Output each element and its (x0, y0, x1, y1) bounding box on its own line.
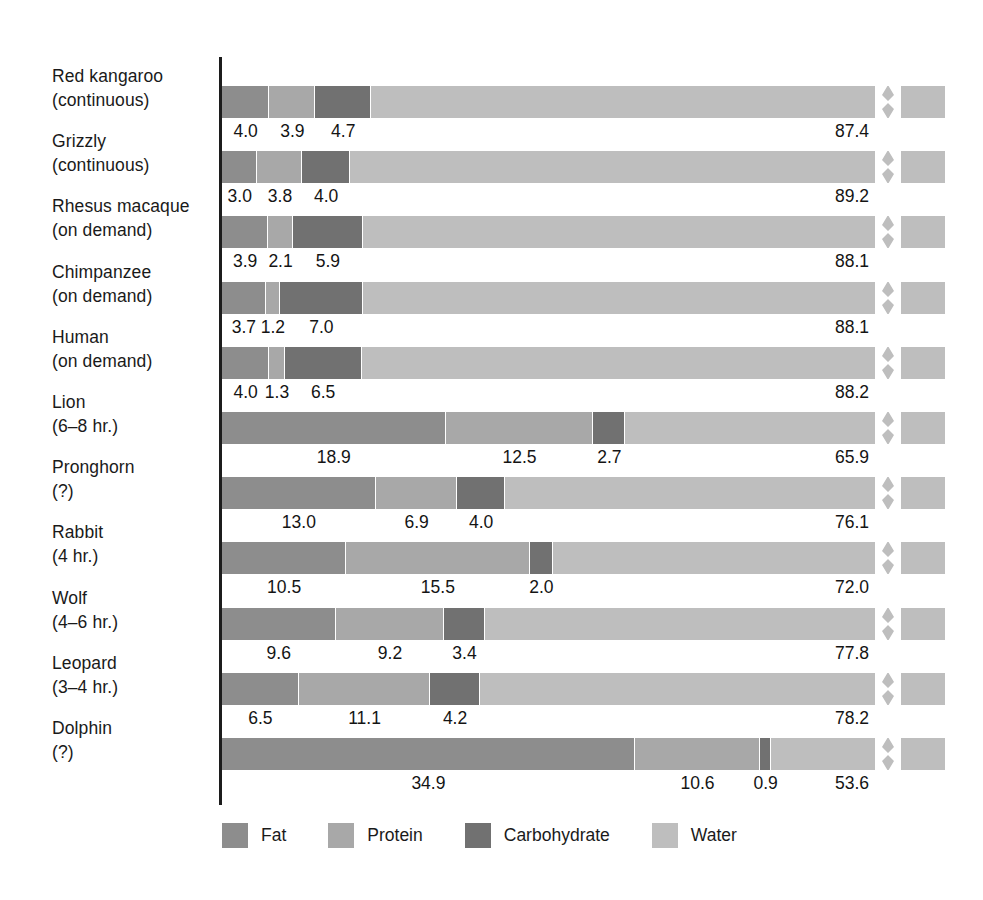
bar-segment-water (350, 151, 945, 183)
row-category-label: Pronghorn(?) (52, 455, 212, 503)
bar-segment-fat (222, 151, 257, 183)
bar-segment-carbohydrate (280, 282, 363, 314)
row-label-feeding-schedule: (3–4 hr.) (52, 675, 212, 699)
row-label-feeding-schedule: (continuous) (52, 153, 212, 177)
chart-row: Leopard(3–4 hr.)6.511.14.278.2 (0, 651, 983, 716)
row-label-species: Pronghorn (52, 457, 135, 477)
row-label-species: Leopard (52, 653, 117, 673)
bar-segment-carbohydrate (530, 542, 554, 574)
row-label-species: Dolphin (52, 718, 112, 738)
row-label-species: Grizzly (52, 131, 106, 151)
row-category-label: Rhesus macaque(on demand) (52, 194, 212, 242)
bar-segment-protein (268, 216, 293, 248)
bar-segment-water (480, 673, 945, 705)
row-label-feeding-schedule: (4 hr.) (52, 544, 212, 568)
row-category-label: Dolphin(?) (52, 716, 212, 764)
bar-value-labels: 34.910.60.953.6 (222, 770, 982, 798)
row-category-label: Red kangaroo(continuous) (52, 64, 212, 112)
bar-segment-carbohydrate (293, 216, 363, 248)
bar-segment-carbohydrate (285, 347, 362, 379)
row-category-label: Leopard(3–4 hr.) (52, 651, 212, 699)
bar-segment-protein (257, 151, 302, 183)
row-label-feeding-schedule: (continuous) (52, 88, 212, 112)
row-label-species: Rabbit (52, 522, 103, 542)
legend-swatch-icon (222, 823, 248, 848)
bar-segment-water (505, 477, 945, 509)
bar-segment-water (771, 738, 945, 770)
stacked-bar (222, 216, 945, 248)
bar-segment-fat (222, 86, 269, 118)
row-label-feeding-schedule: (4–6 hr.) (52, 610, 212, 634)
legend-swatch-icon (465, 823, 491, 848)
bar-segment-carbohydrate (593, 412, 625, 444)
row-label-feeding-schedule: (on demand) (52, 349, 212, 373)
chart-row: Rabbit(4 hr.)10.515.52.072.0 (0, 520, 983, 585)
row-category-label: Lion(6–8 hr.) (52, 390, 212, 438)
row-category-label: Rabbit(4 hr.) (52, 520, 212, 568)
bar-segment-carbohydrate (302, 151, 349, 183)
chart-row: Lion(6–8 hr.)18.912.52.765.9 (0, 390, 983, 455)
bar-segment-fat (222, 608, 336, 640)
bar-segment-water (363, 282, 945, 314)
milk-composition-chart: Red kangaroo(continuous)4.03.94.787.4Gri… (0, 0, 983, 900)
bar-segment-fat (222, 542, 346, 574)
row-label-feeding-schedule: (?) (52, 740, 212, 764)
bar-segment-protein (266, 282, 280, 314)
bar-segment-fat (222, 282, 266, 314)
bar-segment-protein (446, 412, 594, 444)
legend-item-carbohydrate[interactable]: Carbohydrate (465, 823, 652, 848)
bar-segment-water (553, 542, 945, 574)
bar-segment-carbohydrate (315, 86, 371, 118)
bar-segment-carbohydrate (760, 738, 771, 770)
stacked-bar (222, 412, 945, 444)
row-label-species: Wolf (52, 588, 87, 608)
legend-item-fat[interactable]: Fat (222, 823, 328, 848)
stacked-bar (222, 542, 945, 574)
chart-row: Red kangaroo(continuous)4.03.94.787.4 (0, 64, 983, 129)
row-label-species: Rhesus macaque (52, 196, 190, 216)
chart-row: Chimpanzee(on demand)3.71.27.088.1 (0, 260, 983, 325)
row-label-feeding-schedule: (on demand) (52, 218, 212, 242)
bar-segment-water (362, 347, 945, 379)
stacked-bar (222, 282, 945, 314)
row-label-species: Red kangaroo (52, 66, 163, 86)
legend-item-protein[interactable]: Protein (328, 823, 464, 848)
stacked-bar (222, 86, 945, 118)
row-category-label: Chimpanzee(on demand) (52, 260, 212, 308)
chart-row: Grizzly(continuous)3.03.84.089.2 (0, 129, 983, 194)
stacked-bar (222, 673, 945, 705)
chart-row: Human(on demand)4.01.36.588.2 (0, 325, 983, 390)
bar-segment-fat (222, 673, 299, 705)
legend-label: Fat (261, 825, 286, 846)
stacked-bar (222, 347, 945, 379)
legend-label: Water (691, 825, 737, 846)
bar-segment-carbohydrate (444, 608, 484, 640)
row-label-feeding-schedule: (6–8 hr.) (52, 414, 212, 438)
legend-label: Carbohydrate (504, 825, 610, 846)
value-label-fat: 34.9 (411, 770, 445, 796)
row-label-feeding-schedule: (on demand) (52, 284, 212, 308)
bar-segment-water (371, 86, 945, 118)
chart-row: Rhesus macaque(on demand)3.92.15.988.1 (0, 194, 983, 259)
bar-segment-protein (336, 608, 445, 640)
bar-segment-protein (299, 673, 430, 705)
legend-item-water[interactable]: Water (652, 823, 779, 848)
legend-swatch-icon (652, 823, 678, 848)
bar-segment-fat (222, 738, 635, 770)
value-label-water: 53.6 (835, 770, 869, 796)
stacked-bar (222, 477, 945, 509)
stacked-bar (222, 151, 945, 183)
bar-segment-water (625, 412, 945, 444)
chart-row: Pronghorn(?)13.06.94.076.1 (0, 455, 983, 520)
row-category-label: Grizzly(continuous) (52, 129, 212, 177)
row-category-label: Wolf(4–6 hr.) (52, 586, 212, 634)
bar-segment-water (363, 216, 945, 248)
bar-segment-protein (269, 86, 315, 118)
legend-label: Protein (367, 825, 422, 846)
value-label-protein: 10.6 (681, 770, 715, 796)
value-label-carbohydrate: 0.9 (753, 770, 777, 796)
legend-swatch-icon (328, 823, 354, 848)
row-label-species: Chimpanzee (52, 262, 151, 282)
chart-row: Wolf(4–6 hr.)9.69.23.477.8 (0, 586, 983, 651)
bar-segment-protein (346, 542, 529, 574)
